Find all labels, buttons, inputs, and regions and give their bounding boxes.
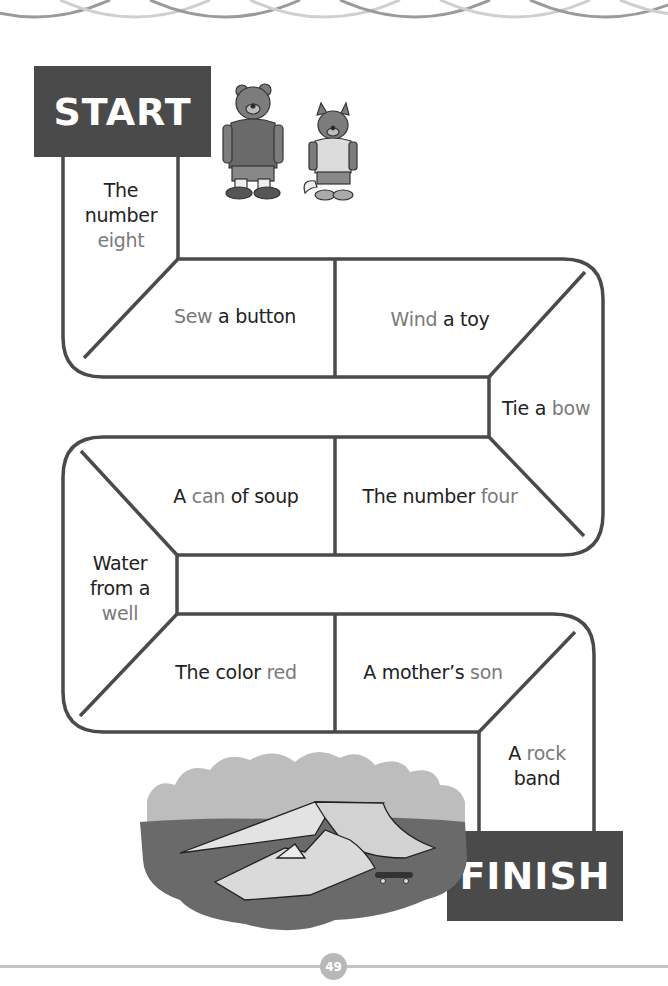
board-space-3: Wind a toy bbox=[340, 303, 540, 335]
skate-park-illustration bbox=[135, 740, 475, 940]
bear-character-icon bbox=[223, 84, 283, 199]
page-number-badge: 49 bbox=[320, 953, 347, 980]
start-sign: START bbox=[34, 66, 211, 157]
board-space-4: Tie a bow bbox=[490, 392, 602, 424]
board-space-8: The color red bbox=[140, 656, 332, 688]
board-space-10: A rockband bbox=[481, 738, 593, 794]
board-space-2: Sew a button bbox=[140, 300, 330, 332]
board-space-6: A can of soup bbox=[140, 480, 332, 512]
footer-rule-left bbox=[0, 965, 322, 968]
board-space-9: A mother’s son bbox=[338, 656, 528, 688]
board-space-5: The number four bbox=[340, 480, 540, 512]
wolf-character-icon bbox=[304, 103, 357, 200]
characters-illustration bbox=[215, 75, 365, 205]
board-space-1: Thenumbereight bbox=[65, 172, 177, 258]
finish-label: FINISH bbox=[459, 854, 610, 898]
footer-rule-right bbox=[345, 965, 668, 968]
board-space-7: Waterfrom awell bbox=[64, 545, 176, 631]
page-number: 49 bbox=[325, 960, 342, 974]
start-label: START bbox=[53, 90, 191, 134]
